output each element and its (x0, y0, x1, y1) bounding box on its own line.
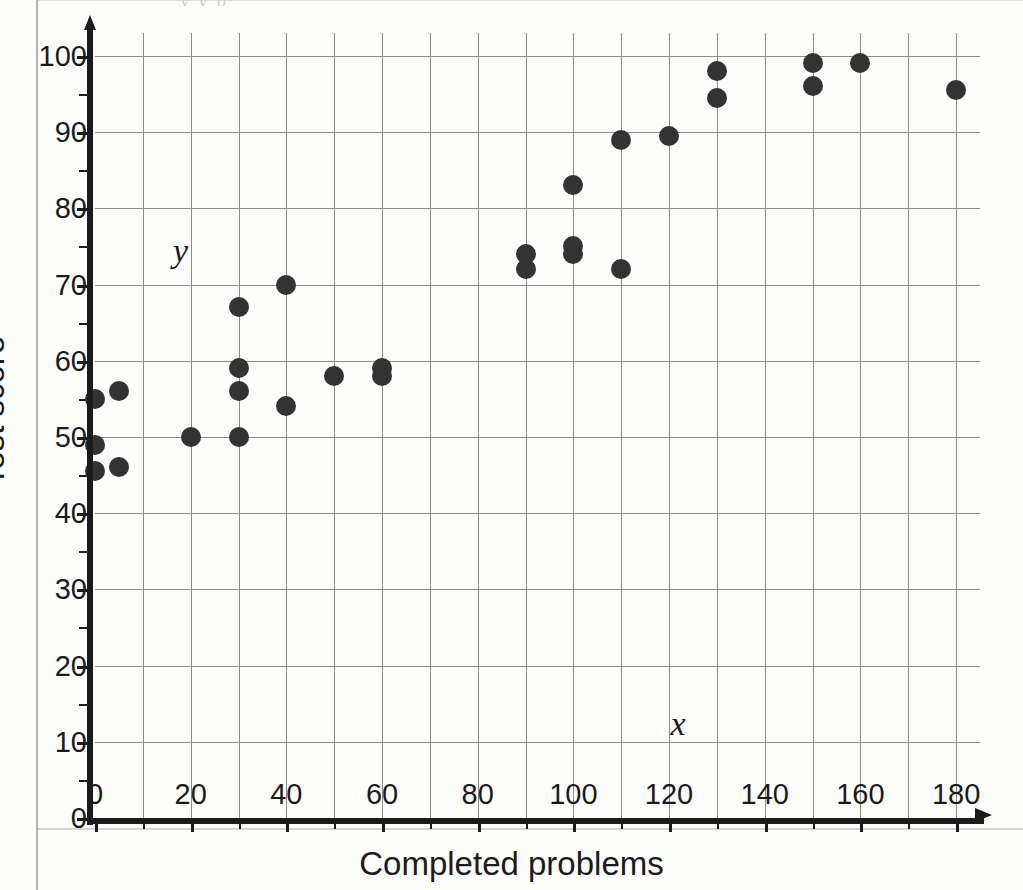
grid-line-horizontal (95, 132, 980, 133)
grid-line-vertical (143, 33, 144, 818)
grid-line-horizontal (95, 437, 980, 438)
x-tick-label: 180 (932, 778, 980, 811)
grid-line-vertical (956, 33, 957, 818)
grid-line-vertical (573, 33, 574, 818)
y-tick-label: 40 (55, 497, 87, 530)
grid-line-vertical (526, 33, 527, 818)
data-point (707, 88, 727, 108)
y-tick-minor (79, 246, 87, 248)
grid-line-vertical (334, 33, 335, 818)
y-tick-label: 50 (55, 420, 87, 453)
grid-line-horizontal (95, 208, 980, 209)
grid-line-vertical (286, 33, 287, 818)
data-point (707, 61, 727, 81)
cut-off-text-ghost: y y p (180, 0, 740, 6)
scatter-plot: 0102030405060708090100020406080100120140… (95, 33, 980, 818)
data-point (803, 53, 823, 73)
data-point (516, 259, 536, 279)
data-point (276, 275, 296, 295)
data-point (324, 366, 344, 386)
y-axis-title: Test score (0, 111, 12, 711)
grid-line-horizontal (95, 513, 980, 514)
grid-line-vertical (621, 33, 622, 818)
grid-line-vertical (669, 33, 670, 818)
data-point (803, 76, 823, 96)
x-axis-arrowhead (975, 808, 992, 822)
data-point (611, 130, 631, 150)
grid-line-vertical (382, 33, 383, 818)
grid-line-vertical (191, 33, 192, 818)
y-tick-label: 100 (39, 39, 87, 72)
data-point (611, 259, 631, 279)
y-tick-label: 20 (55, 649, 87, 682)
scanned-page: y y p 0102030405060708090100020406080100… (0, 0, 1023, 890)
y-variable-label: y (173, 232, 188, 270)
data-point (372, 366, 392, 386)
y-tick-minor (79, 627, 87, 629)
data-point (109, 457, 129, 477)
grid-line-horizontal (95, 666, 980, 667)
data-point (659, 126, 679, 146)
y-tick-label: 70 (55, 268, 87, 301)
y-tick-minor (79, 551, 87, 553)
grid-line-vertical (239, 33, 240, 818)
x-tick-label: 20 (175, 778, 207, 811)
x-tick-label: 160 (836, 778, 884, 811)
y-tick-label: 80 (55, 192, 87, 225)
data-point (229, 381, 249, 401)
grid-line-vertical (430, 33, 431, 818)
data-point (229, 427, 249, 447)
grid-line-vertical (908, 33, 909, 818)
y-tick-minor (79, 780, 87, 782)
y-tick-label: 30 (55, 573, 87, 606)
y-axis-arrowhead (84, 15, 96, 30)
y-tick-label: 90 (55, 116, 87, 149)
y-tick-minor (79, 94, 87, 96)
data-point (276, 396, 296, 416)
x-tick-label: 140 (741, 778, 789, 811)
data-point (181, 427, 201, 447)
x-tick-label: 100 (549, 778, 597, 811)
y-axis-line (87, 25, 93, 825)
grid-line-horizontal (95, 742, 980, 743)
data-point (946, 80, 966, 100)
page-bottom-rule (36, 828, 1023, 830)
grid-line-horizontal (95, 361, 980, 362)
grid-line-vertical (478, 33, 479, 818)
grid-line-vertical (765, 33, 766, 818)
grid-line-vertical (860, 33, 861, 818)
x-axis-title: Completed problems (0, 845, 1023, 883)
x-axis-line (87, 818, 984, 824)
data-point (109, 381, 129, 401)
y-tick-minor (79, 704, 87, 706)
y-tick-label: 10 (55, 725, 87, 758)
x-variable-label: x (671, 705, 686, 743)
x-tick-label: 60 (366, 778, 398, 811)
grid-line-horizontal (95, 56, 980, 57)
x-tick-label: 120 (645, 778, 693, 811)
y-tick-label: 0 (71, 802, 87, 835)
grid-line-vertical (717, 33, 718, 818)
page-gutter-rule (36, 0, 38, 890)
grid-line-vertical (813, 33, 814, 818)
data-point (229, 358, 249, 378)
y-tick-label: 60 (55, 344, 87, 377)
x-tick-label: 40 (270, 778, 302, 811)
data-point (563, 244, 583, 264)
grid-line-horizontal (95, 285, 980, 286)
data-point (563, 175, 583, 195)
y-tick-minor (79, 170, 87, 172)
data-point (229, 297, 249, 317)
grid-line-horizontal (95, 589, 980, 590)
y-tick-minor (79, 323, 87, 325)
data-point (850, 53, 870, 73)
x-tick-label: 80 (462, 778, 494, 811)
